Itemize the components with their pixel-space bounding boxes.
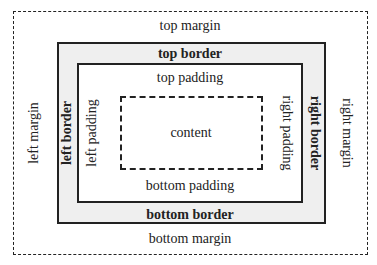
right-border-label: right border: [308, 96, 322, 170]
right-padding-label: right padding: [280, 95, 294, 170]
top-padding-label: top padding: [157, 71, 224, 85]
left-border-label: left border: [60, 101, 74, 165]
left-margin-label: left margin: [27, 102, 41, 164]
bottom-padding-label: bottom padding: [146, 179, 234, 193]
content-label: content: [170, 126, 211, 140]
right-margin-label: right margin: [340, 98, 354, 167]
top-border-label: top border: [158, 47, 222, 61]
top-margin-label: top margin: [160, 19, 221, 33]
left-padding-label: left padding: [85, 99, 99, 166]
bottom-margin-label: bottom margin: [149, 232, 232, 246]
bottom-border-label: bottom border: [146, 208, 234, 222]
